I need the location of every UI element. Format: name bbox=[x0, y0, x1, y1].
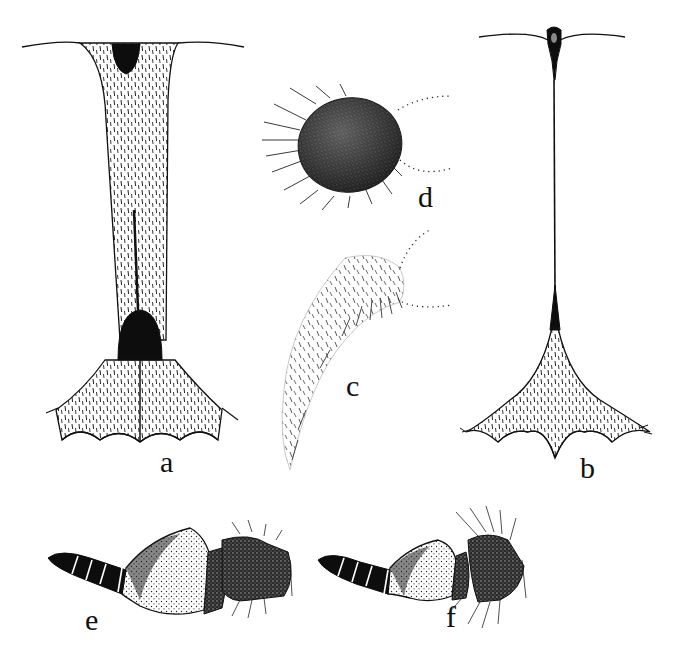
panel-c-outline-dotted bbox=[400, 230, 452, 307]
panel-a-flared-base bbox=[56, 360, 222, 442]
panel-b-flared-base bbox=[466, 328, 650, 458]
panel-a: a bbox=[22, 42, 244, 478]
panel-f-apical-segment bbox=[468, 535, 524, 602]
panel-d: d bbox=[262, 84, 452, 213]
panel-c-lobe bbox=[282, 256, 404, 470]
panel-c: c bbox=[282, 230, 452, 470]
panel-e-apical-segment bbox=[222, 537, 291, 601]
panel-a-label: a bbox=[160, 445, 173, 478]
panel-e: e bbox=[48, 520, 292, 636]
panel-e-label: e bbox=[85, 603, 98, 636]
panel-f: f bbox=[318, 506, 526, 633]
panel-a-tube bbox=[80, 43, 178, 340]
panel-b-label: b bbox=[580, 451, 595, 484]
panel-b-stalk bbox=[554, 80, 555, 290]
panel-f-label: f bbox=[446, 600, 456, 633]
panel-c-label: c bbox=[346, 369, 359, 402]
panel-b: b bbox=[460, 27, 652, 484]
panel-d-label: d bbox=[418, 180, 433, 213]
panel-d-outline-dotted bbox=[398, 96, 452, 172]
panel-e-antenna-tip bbox=[48, 553, 126, 594]
figure-plate: a b d bbox=[0, 0, 678, 661]
